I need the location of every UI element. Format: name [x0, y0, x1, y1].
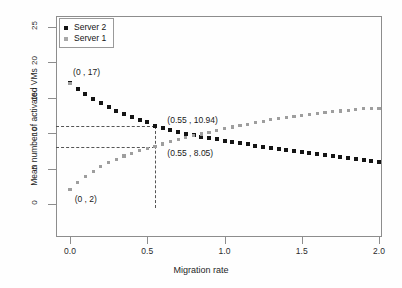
x-axis-tick	[225, 237, 226, 244]
x-axis-tick	[379, 237, 380, 244]
data-point	[230, 140, 234, 144]
data-point	[347, 109, 350, 112]
data-point	[246, 142, 250, 146]
data-point	[161, 142, 164, 145]
data-point	[354, 108, 357, 111]
legend-swatch-square-icon	[64, 37, 68, 41]
data-point	[92, 170, 95, 173]
x-axis-tick	[70, 237, 71, 244]
data-point	[316, 112, 319, 115]
point-annotation: (0.55 , 10.94)	[167, 115, 218, 125]
x-axis-tick	[302, 237, 303, 244]
data-point	[168, 128, 172, 132]
data-point	[153, 145, 156, 148]
x-axis-tick-label: 2.0	[364, 246, 394, 256]
data-point	[76, 181, 79, 184]
data-point	[122, 154, 125, 157]
data-point	[107, 161, 110, 164]
data-point	[362, 107, 365, 110]
data-point	[277, 117, 280, 120]
data-point	[307, 151, 311, 155]
point-annotation: (0 , 17)	[73, 67, 100, 77]
data-point	[145, 120, 149, 124]
data-point-origin-17	[68, 82, 71, 85]
data-point	[114, 109, 118, 113]
data-point	[377, 160, 381, 164]
legend-label-server-2: Server 2	[74, 22, 106, 33]
data-point	[377, 107, 380, 110]
legend-swatch-square-icon	[64, 26, 68, 30]
data-point	[285, 116, 288, 119]
x-axis-tick	[147, 237, 148, 244]
data-point	[215, 129, 218, 132]
data-point	[169, 140, 172, 143]
horizontal-guide-line	[56, 126, 155, 127]
legend-item-server-1[interactable]: Server 1	[64, 33, 106, 44]
data-point	[254, 121, 257, 124]
x-axis-tick-label: 1.0	[210, 246, 240, 256]
x-axis-tick-label: 0.5	[132, 246, 162, 256]
data-point	[369, 159, 373, 163]
data-point	[308, 113, 311, 116]
data-point	[207, 136, 211, 140]
data-point	[99, 165, 102, 168]
y-axis-tick	[48, 204, 56, 205]
x-axis-tick-label: 0.0	[55, 246, 85, 256]
y-axis-tick	[48, 62, 56, 63]
horizontal-guide-line	[56, 147, 155, 148]
data-point	[362, 158, 366, 162]
data-point	[300, 114, 303, 117]
data-point	[253, 144, 257, 148]
data-point	[277, 147, 281, 151]
point-annotation: (0 , 2)	[75, 194, 97, 204]
data-point	[346, 156, 350, 160]
data-point	[138, 149, 141, 152]
plot-area: (0 , 17)(0 , 2)(0.55 , 10.94)(0.55 , 8.0…	[56, 16, 382, 237]
y-axis-tick	[48, 133, 56, 134]
data-point	[176, 130, 180, 134]
data-point	[231, 125, 234, 128]
data-point	[284, 148, 288, 152]
y-axis-tick	[48, 98, 56, 99]
point-annotation: (0.55 , 8.05)	[167, 148, 213, 158]
data-point	[215, 137, 219, 141]
y-axis-tick	[48, 169, 56, 170]
data-point	[331, 110, 334, 113]
data-point	[146, 147, 149, 150]
data-point	[339, 109, 342, 112]
data-point	[184, 136, 187, 139]
data-point	[354, 157, 358, 161]
legend-label-server-1: Server 1	[74, 33, 106, 44]
data-point	[153, 124, 157, 128]
data-point	[192, 134, 195, 137]
data-point	[161, 126, 165, 130]
data-point	[331, 154, 335, 158]
data-point	[122, 112, 126, 116]
data-point	[99, 101, 103, 105]
data-point	[300, 150, 304, 154]
y-axis-label: Mean number of activated VMs	[29, 47, 39, 207]
data-point	[115, 158, 118, 161]
data-point	[91, 97, 95, 101]
data-point	[246, 123, 249, 126]
x-axis-tick-label: 1.5	[287, 246, 317, 256]
data-point	[269, 118, 272, 121]
legend-item-server-2[interactable]: Server 2	[64, 22, 106, 33]
y-axis-tick-label: 25	[30, 17, 39, 33]
y-axis-tick	[48, 27, 56, 28]
data-point	[238, 141, 242, 145]
data-point	[315, 152, 319, 156]
data-point	[130, 115, 134, 119]
chart-legend[interactable]: Server 2 Server 1	[59, 18, 114, 48]
data-point	[223, 139, 227, 143]
data-point	[138, 118, 142, 122]
data-point	[269, 146, 273, 150]
data-point	[83, 92, 87, 96]
vertical-guide-line	[155, 126, 156, 208]
data-point	[107, 105, 111, 109]
data-point	[370, 107, 373, 110]
data-point	[292, 149, 296, 153]
data-point	[130, 152, 133, 155]
chart-figure: 0510152025 0.00.51.01.52.0 Migration rat…	[0, 0, 402, 288]
data-point	[223, 127, 226, 130]
